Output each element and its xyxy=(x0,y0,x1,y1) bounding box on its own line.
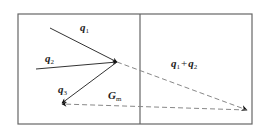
label-q3-sub: 3 xyxy=(64,89,68,97)
label-Gm: Gm xyxy=(108,90,121,103)
vector-Gm-arrow xyxy=(62,104,247,110)
label-sum-op: + xyxy=(180,57,188,69)
vector-diagram xyxy=(0,0,266,137)
label-q1-sub: 1 xyxy=(86,27,90,35)
label-q2-sub: 2 xyxy=(51,58,55,66)
label-q1: q1 xyxy=(80,22,89,35)
label-sum-sub2: 2 xyxy=(194,63,198,71)
label-Gm-base: G xyxy=(108,89,116,101)
label-q3: q3 xyxy=(58,84,67,97)
label-Gm-sub: m xyxy=(116,95,121,103)
label-q1-plus-q2: q1+q2 xyxy=(171,58,197,71)
label-q2: q2 xyxy=(45,53,54,66)
